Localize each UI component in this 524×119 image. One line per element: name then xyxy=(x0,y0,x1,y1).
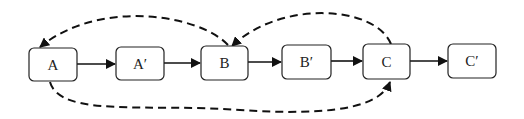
dashed-edge-b-to-a xyxy=(40,16,228,47)
dashed-edge-c-to-b xyxy=(232,13,391,46)
node-a-prime: A′ xyxy=(116,47,164,80)
node-c-label: C xyxy=(381,54,391,70)
node-c-prime: C′ xyxy=(448,44,496,78)
node-b-prime: B′ xyxy=(282,45,331,79)
node-c: C xyxy=(363,44,410,79)
node-b: B xyxy=(201,46,248,80)
node-b-prime-label: B′ xyxy=(300,54,313,70)
node-a: A xyxy=(29,48,77,81)
dashed-edge-a-to-c xyxy=(50,82,390,112)
node-a-label: A xyxy=(48,57,59,73)
node-c-prime-label: C′ xyxy=(465,53,478,69)
node-b-label: B xyxy=(219,55,229,71)
node-a-prime-label: A′ xyxy=(133,56,147,72)
diagram-canvas: A A′ B B′ C C′ xyxy=(0,0,524,119)
